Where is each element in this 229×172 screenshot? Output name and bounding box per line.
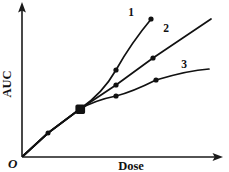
curve-2-path bbox=[23, 19, 211, 156]
curve-1-path bbox=[23, 18, 152, 156]
branch-point bbox=[76, 105, 85, 114]
data-point bbox=[153, 77, 158, 82]
data-point bbox=[113, 82, 118, 87]
data-point bbox=[150, 55, 155, 60]
curve-2-label: 2 bbox=[163, 22, 169, 34]
curve-3-path bbox=[23, 69, 209, 156]
curve-3-label: 3 bbox=[181, 58, 187, 70]
y-axis-label: AUC bbox=[0, 70, 14, 97]
data-point bbox=[113, 93, 118, 98]
data-point bbox=[148, 16, 153, 21]
data-point bbox=[46, 131, 51, 136]
data-point-markers bbox=[46, 16, 159, 135]
plot-canvas: O Dose AUC 1 2 3 bbox=[0, 0, 229, 172]
origin-label: O bbox=[8, 156, 18, 171]
data-point bbox=[113, 67, 118, 72]
x-axis-label: Dose bbox=[118, 159, 144, 172]
curve-1-label: 1 bbox=[128, 6, 134, 18]
dose-auc-figure: O Dose AUC 1 2 3 bbox=[0, 0, 229, 172]
